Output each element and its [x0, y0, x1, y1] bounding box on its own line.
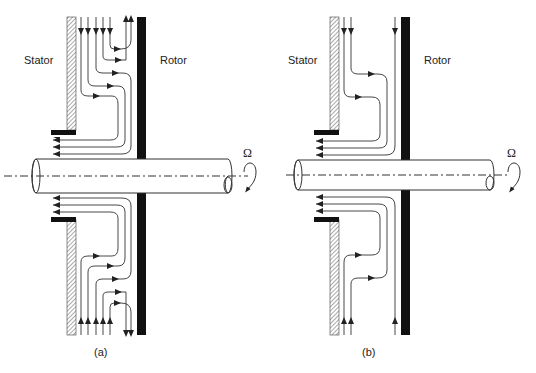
caption-a: (a) [94, 346, 107, 358]
panel-b: Stator Rotor Ω [286, 17, 520, 358]
rotation-arrow-icon [508, 163, 520, 190]
flow-lines-lower [316, 194, 398, 335]
stator-foot-upper [51, 130, 76, 135]
stator-foot-lower [314, 217, 339, 222]
stator-foot-upper [314, 130, 339, 135]
flow-lines-upper [316, 17, 398, 158]
stator-foot-lower [51, 217, 76, 222]
stator-lower [67, 220, 76, 335]
panel-a: Stator Rotor Ω [4, 15, 256, 358]
flow-lines-upper [53, 15, 134, 157]
stator-upper [67, 17, 76, 130]
stator-label: Stator [288, 54, 318, 66]
stator-label: Stator [24, 54, 54, 66]
rotor-label: Rotor [424, 54, 451, 66]
caption-b: (b) [362, 346, 375, 358]
stator-upper [330, 17, 339, 130]
rotor-stator-diagram: Stator Rotor Ω [0, 0, 536, 373]
flow-lines-lower [53, 195, 134, 337]
rotor-label: Rotor [160, 54, 187, 66]
omega-label: Ω [507, 146, 516, 160]
omega-label: Ω [243, 146, 252, 160]
stator-lower [330, 220, 339, 335]
